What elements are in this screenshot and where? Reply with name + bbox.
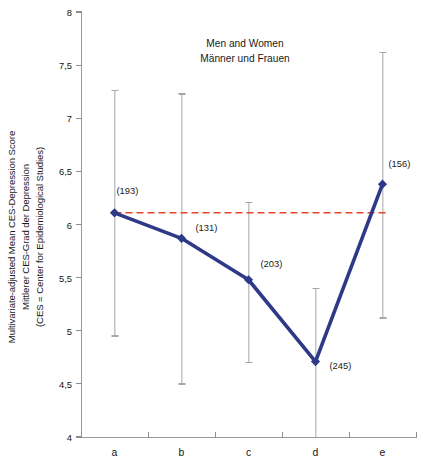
x-tick-label-e: e (368, 447, 398, 458)
y-tick-7 (76, 118, 82, 119)
x-axis-line (81, 437, 416, 438)
error-cap-e-high (379, 52, 386, 53)
y-tick-8 (76, 11, 82, 12)
point-count-label-a: (193) (117, 185, 139, 196)
x-tick-3 (282, 432, 283, 438)
y-tick-5,5 (76, 277, 82, 278)
y-tick-label-7,5: 7,5 (48, 60, 72, 71)
point-count-label-d: (245) (330, 360, 352, 371)
point-count-label-b: (131) (196, 222, 218, 233)
y-tick-6 (76, 224, 82, 225)
y-axis-title-line-1: Multivariate-adjusted Mean CES-Depressio… (5, 130, 19, 342)
error-bar-b (181, 94, 182, 384)
x-tick-2 (215, 432, 216, 438)
error-cap-c-low (245, 362, 252, 363)
chart-title: Men and Women Männer und Frauen (160, 36, 330, 66)
y-axis-title-line-2: Mittlerer CES-Grad der Depression (19, 130, 33, 342)
error-cap-d-high (312, 288, 319, 289)
chart-title-line-en: Men and Women (160, 36, 330, 51)
error-cap-c-high (245, 202, 252, 203)
error-cap-e-low (379, 317, 386, 318)
error-cap-a-low (111, 335, 118, 336)
error-cap-b-low (178, 383, 185, 384)
error-bar-c (248, 202, 249, 362)
error-bar-d (315, 288, 316, 437)
y-axis-title: Multivariate-adjusted Mean CES-Depressio… (0, 0, 52, 473)
y-tick-label-4,5: 4,5 (48, 378, 72, 389)
y-tick-label-7: 7 (48, 113, 72, 124)
x-tick-5 (416, 432, 417, 438)
x-tick-0 (81, 432, 82, 438)
error-cap-b-high (178, 93, 185, 94)
chart-container: Multivariate-adjusted Mean CES-Depressio… (0, 0, 423, 473)
y-tick-label-4: 4 (48, 432, 72, 443)
error-cap-a-high (111, 90, 118, 91)
y-tick-5 (76, 330, 82, 331)
x-tick-label-b: b (167, 447, 197, 458)
y-tick-7,5 (76, 65, 82, 66)
x-tick-label-d: d (301, 447, 331, 458)
y-tick-6,5 (76, 171, 82, 172)
chart-title-line-de: Männer und Frauen (160, 51, 330, 66)
x-tick-4 (349, 432, 350, 438)
point-count-label-c: (203) (261, 258, 283, 269)
error-bar-a (114, 91, 115, 336)
series-overlay (0, 0, 423, 473)
y-tick-label-8: 8 (48, 7, 72, 18)
y-tick-label-6: 6 (48, 219, 72, 230)
x-tick-label-c: c (234, 447, 264, 458)
x-tick-label-a: a (100, 447, 130, 458)
y-tick-label-6,5: 6,5 (48, 166, 72, 177)
y-tick-label-5,5: 5,5 (48, 272, 72, 283)
y-axis-title-line-3: (CES = Center for Epidemiological Studie… (33, 130, 47, 342)
point-count-label-e: (156) (389, 158, 411, 169)
x-tick-1 (148, 432, 149, 438)
y-tick-label-5: 5 (48, 325, 72, 336)
error-bar-e (382, 52, 383, 318)
y-tick-4,5 (76, 383, 82, 384)
